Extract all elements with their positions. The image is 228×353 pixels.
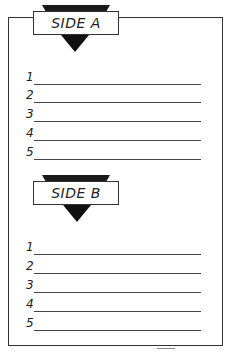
line-number: 1 [26, 70, 34, 84]
line-number: 2 [26, 259, 34, 273]
write-line [34, 254, 201, 255]
write-line [34, 102, 201, 103]
write-line [34, 121, 201, 122]
side-a-title: SIDE A [51, 15, 101, 31]
line-number: 5 [26, 316, 34, 330]
write-line [34, 330, 201, 331]
side-b-triangle-icon [63, 205, 91, 222]
line-number: 4 [26, 297, 34, 311]
side-a-triangle-icon [61, 35, 89, 52]
side-a-line-2[interactable]: 2 [26, 85, 201, 103]
write-line [34, 159, 201, 160]
side-a-line-3[interactable]: 3 [26, 104, 201, 122]
write-line [34, 140, 201, 141]
side-a-line-5[interactable]: 5 [26, 142, 201, 160]
side-b-line-5[interactable]: 5 [26, 313, 201, 331]
side-b-title: SIDE B [51, 185, 101, 201]
side-a-line-4[interactable]: 4 [26, 123, 201, 141]
line-number: 2 [26, 88, 34, 102]
line-number: 5 [26, 145, 34, 159]
side-b-title-box: SIDE B [33, 181, 119, 205]
side-a-line-1[interactable]: 1 [26, 67, 201, 85]
line-number: 1 [26, 240, 34, 254]
write-line [34, 292, 201, 293]
side-a-title-box: SIDE A [33, 11, 119, 35]
write-line [34, 273, 201, 274]
write-line [34, 311, 201, 312]
side-b-line-1[interactable]: 1 [26, 237, 201, 255]
side-b-line-3[interactable]: 3 [26, 275, 201, 293]
line-number: 4 [26, 126, 34, 140]
line-number: 3 [26, 278, 34, 292]
signature-mark [157, 348, 175, 352]
line-number: 3 [26, 107, 34, 121]
side-b-line-4[interactable]: 4 [26, 294, 201, 312]
side-b-line-2[interactable]: 2 [26, 256, 201, 274]
